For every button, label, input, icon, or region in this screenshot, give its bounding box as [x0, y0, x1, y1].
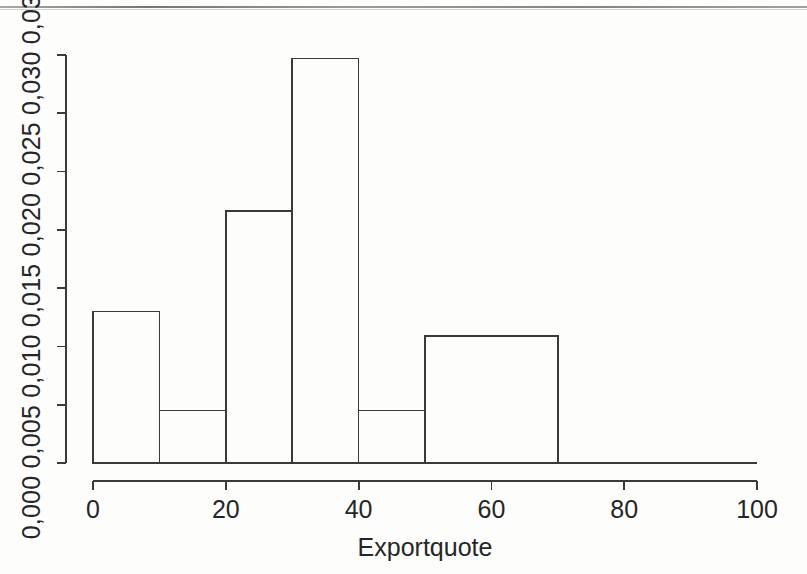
x-axis-tick-label-60: 60 [477, 495, 505, 524]
x-axis-tick-label-40: 40 [345, 495, 373, 524]
histogram-bar [93, 311, 159, 463]
histogram-bars [93, 58, 558, 463]
histogram-figure: 0,000 0,005 0,010 0,015 0,020 0,025 0,03… [0, 0, 807, 574]
x-axis-tick-label-80: 80 [610, 495, 638, 524]
histogram-bar [159, 411, 225, 463]
x-axis-tick-label-20: 20 [212, 495, 240, 524]
x-axis [93, 481, 757, 490]
histogram-screenshot: 0,000 0,005 0,010 0,015 0,020 0,025 0,03… [0, 0, 807, 574]
x-axis-tick-label-0: 0 [86, 495, 100, 524]
y-axis-tick-labels-text: 0,000 0,005 0,010 0,015 0,020 0,025 0,03… [17, 0, 46, 539]
histogram-bar [359, 411, 425, 463]
histogram-bar [425, 336, 558, 463]
histogram-bar [292, 58, 358, 463]
plot-canvas [0, 0, 807, 574]
x-axis-title: Exportquote [358, 533, 493, 562]
y-axis-tick-labels: 0,000 0,005 0,010 0,015 0,020 0,025 0,03… [0, 0, 62, 520]
x-axis-tick-label-100: 100 [736, 495, 778, 524]
histogram-bar [226, 211, 292, 463]
